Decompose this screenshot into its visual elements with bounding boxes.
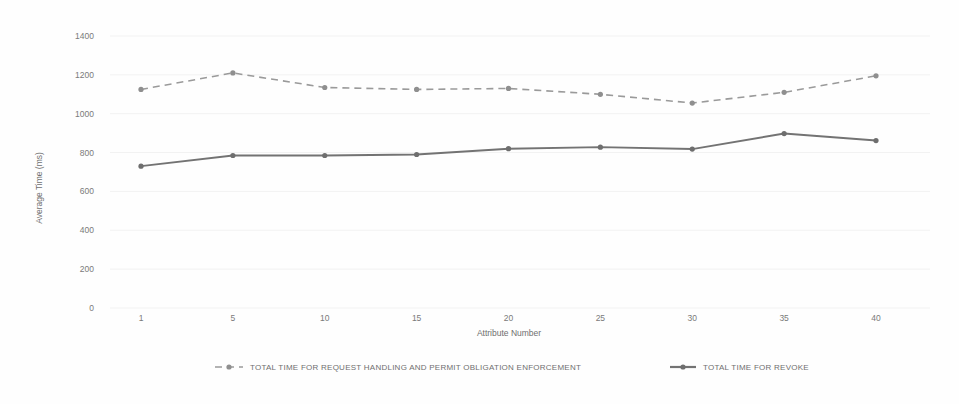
data-point-marker [414, 87, 419, 92]
data-point-marker [690, 100, 695, 105]
data-point-marker [782, 90, 787, 95]
data-point-marker [598, 92, 603, 97]
y-axis-tick-label: 0 [89, 303, 94, 313]
y-axis-tick-label: 1400 [75, 31, 94, 41]
data-point-marker [138, 87, 143, 92]
y-axis-tick-label: 200 [80, 264, 94, 274]
y-axis-tick-label: 800 [80, 148, 94, 158]
x-axis-tick-label: 30 [688, 313, 698, 323]
x-axis-tick-label: 35 [779, 313, 789, 323]
chart-plot-area: 1400120010008006004002000 15101520253035… [0, 0, 959, 404]
x-axis-tick-label: 20 [504, 313, 514, 323]
legend-label[interactable]: TOTAL TIME FOR REVOKE [703, 363, 809, 372]
x-axis-tick-label: 25 [596, 313, 606, 323]
data-series-group [138, 70, 878, 168]
y-axis-tick-labels: 1400120010008006004002000 [75, 31, 94, 313]
legend-marker [680, 364, 685, 369]
x-axis-title: Attribute Number [477, 328, 541, 338]
data-point-marker [230, 153, 235, 158]
y-axis-tick-label: 400 [80, 225, 94, 235]
y-axis-tick-label: 1000 [75, 109, 94, 119]
line-chart-svg: 1400120010008006004002000 15101520253035… [0, 0, 959, 404]
legend-marker [226, 364, 231, 369]
x-axis-tick-labels: 1510152025303540 [139, 313, 881, 323]
data-point-marker [782, 131, 787, 136]
legend-label[interactable]: TOTAL TIME FOR REQUEST HANDLING AND PERM… [250, 363, 581, 372]
y-axis-tick-label: 1200 [75, 70, 94, 80]
x-axis-tick-label: 1 [139, 313, 144, 323]
data-point-marker [598, 145, 603, 150]
data-point-marker [506, 146, 511, 151]
data-point-marker [230, 70, 235, 75]
x-axis-tick-label: 15 [412, 313, 422, 323]
data-point-marker [506, 86, 511, 91]
data-point-marker [690, 146, 695, 151]
data-point-marker [138, 164, 143, 169]
y-axis-tick-label: 600 [80, 186, 94, 196]
x-axis-tick-label: 5 [231, 313, 236, 323]
gridlines-group [110, 36, 930, 308]
data-point-marker [322, 85, 327, 90]
data-point-marker [322, 153, 327, 158]
data-point-marker [414, 152, 419, 157]
data-point-marker [873, 138, 878, 143]
x-axis-tick-label: 10 [320, 313, 330, 323]
chart-container: 1400120010008006004002000 15101520253035… [0, 0, 959, 404]
data-point-marker [873, 73, 878, 78]
y-axis-title: Average Time (ms) [34, 152, 44, 224]
x-axis-tick-label: 40 [871, 313, 881, 323]
chart-legend: TOTAL TIME FOR REQUEST HANDLING AND PERM… [215, 363, 809, 372]
